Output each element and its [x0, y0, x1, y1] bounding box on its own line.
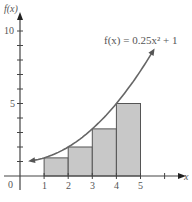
y-axis-label: f(x)	[4, 3, 19, 15]
rectangle-1	[44, 158, 68, 176]
y-axis-arrow-icon	[17, 12, 23, 20]
origin-label: 0	[8, 179, 13, 190]
y-tick-label-10: 10	[4, 25, 14, 36]
rectangles	[44, 104, 140, 177]
rectangle-3	[92, 129, 116, 176]
x-tick-label-3: 3	[90, 180, 95, 191]
x-axis-label: x	[183, 171, 189, 182]
x-tick-label-1: 1	[42, 180, 47, 191]
x-tick-label-2: 2	[66, 180, 71, 191]
function-label: f(x) = 0.25x² + 1	[104, 34, 177, 47]
curve-left-arrow-icon	[28, 157, 35, 163]
rectangle-2	[68, 147, 92, 176]
x-tick-label-5: 5	[138, 180, 143, 191]
riemann-sum-chart: f(x) 10 5 0 1 2 3 4 5 x f(x) = 0.25x² + …	[0, 0, 192, 202]
x-tick-label-4: 4	[114, 180, 119, 191]
rectangle-4	[116, 104, 140, 177]
y-tick-label-5: 5	[10, 98, 15, 109]
